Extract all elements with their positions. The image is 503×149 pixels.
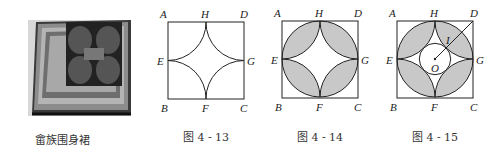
label-E: E: [385, 54, 393, 66]
label-D: D: [469, 7, 478, 19]
figure-4-15-caption: 图 4 - 15: [412, 128, 458, 144]
label-G: G: [361, 54, 369, 66]
label-O: O: [431, 62, 439, 74]
figure-4-14-diagram: A H D E G B F C: [264, 0, 374, 120]
label-E: E: [270, 54, 278, 66]
label-C: C: [470, 101, 478, 113]
figure-4-15-diagram: A H D E G B F C O I: [380, 0, 495, 120]
label-A: A: [273, 7, 281, 19]
label-E: E: [156, 55, 164, 67]
figure-4-13-caption: 图 4 - 13: [183, 128, 229, 144]
label-B: B: [161, 102, 168, 114]
photo-panel: 畲族围身裙: [0, 0, 135, 149]
label-G: G: [247, 55, 255, 67]
label-H: H: [314, 7, 324, 19]
label-B: B: [390, 101, 397, 113]
figure-4-14-caption: 图 4 - 14: [297, 128, 343, 144]
label-C: C: [354, 101, 362, 113]
label-H: H: [429, 7, 439, 19]
photo-caption: 畲族围身裙: [35, 131, 90, 147]
label-F: F: [430, 101, 438, 113]
figure-4-13-diagram: A H D E G B F C: [150, 0, 260, 120]
label-A: A: [388, 7, 396, 19]
figure-4-14: A H D E G B F C 图 4 - 14: [264, 0, 374, 149]
label-F: F: [315, 101, 323, 113]
label-C: C: [240, 102, 248, 114]
label-A: A: [159, 8, 167, 20]
figure-4-13: A H D E G B F C 图 4 - 13: [150, 0, 260, 149]
label-G: G: [476, 54, 484, 66]
figure-4-15: A H D E G B F C O I 图 4 - 15: [380, 0, 495, 149]
label-B: B: [275, 101, 282, 113]
label-D: D: [239, 8, 248, 20]
apron-photo: [28, 20, 131, 116]
label-D: D: [353, 7, 362, 19]
label-H: H: [200, 8, 210, 20]
label-F: F: [201, 102, 209, 114]
